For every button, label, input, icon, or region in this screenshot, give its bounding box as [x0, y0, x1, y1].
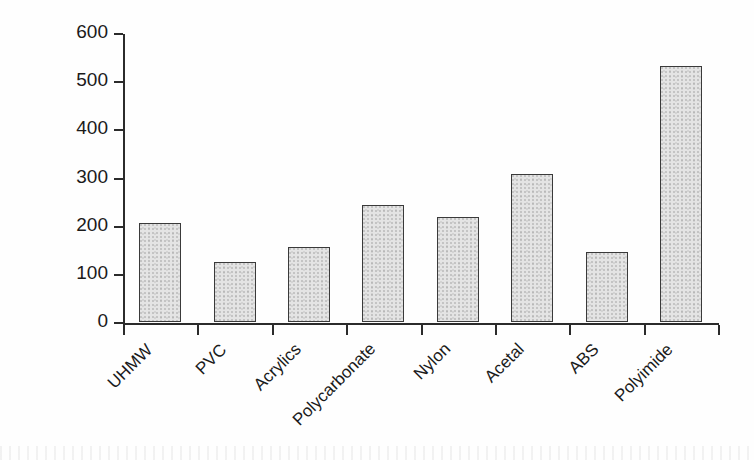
y-tick-label: 600	[38, 21, 108, 42]
scan-edge-artifact	[0, 446, 754, 460]
y-tick-label: 200	[38, 214, 108, 235]
x-tick-label: Nylon	[410, 339, 454, 383]
y-tick: 200	[114, 226, 123, 228]
x-tick	[421, 325, 423, 335]
y-tick-label: 300	[38, 166, 108, 187]
x-tick-label: ABS	[565, 340, 602, 377]
bar	[511, 174, 553, 322]
bar	[437, 217, 479, 322]
x-tick	[346, 325, 348, 335]
x-axis-labels: UHMWPVCAcrylicsPolycarbonateNylonAcetalA…	[123, 336, 754, 460]
x-tick	[272, 325, 274, 335]
y-tick: 100	[114, 274, 123, 276]
bar	[288, 247, 330, 322]
x-tick-label: UHMW	[104, 340, 156, 392]
x-tick-label: Acrylics	[250, 340, 305, 395]
y-tick-label: 500	[38, 69, 108, 90]
bar	[362, 205, 404, 322]
x-tick	[197, 325, 199, 335]
x-tick	[718, 325, 720, 335]
bar	[139, 223, 181, 322]
x-tick	[495, 325, 497, 335]
y-tick-label: 0	[38, 310, 108, 331]
x-tick	[569, 325, 571, 335]
x-tick-label: PVC	[192, 340, 230, 378]
y-tick: 500	[114, 81, 123, 83]
y-tick: 300	[114, 178, 123, 180]
bar	[586, 252, 628, 322]
x-tick-label: Polyimide	[611, 340, 677, 406]
x-tick-label: Acetal	[481, 339, 528, 386]
bar-chart-figure: Temperature (°F) 0100200300400500600 UHM…	[0, 0, 754, 460]
plot-area: 0100200300400500600	[123, 34, 718, 323]
y-axis-line	[123, 34, 125, 324]
x-tick	[644, 325, 646, 335]
y-tick-label: 100	[38, 262, 108, 283]
y-tick: 0	[114, 322, 123, 324]
y-tick-label: 400	[38, 117, 108, 138]
bar	[214, 262, 256, 322]
x-tick	[123, 325, 125, 335]
bar	[660, 66, 702, 322]
y-tick: 400	[114, 129, 123, 131]
y-tick: 600	[114, 33, 123, 35]
